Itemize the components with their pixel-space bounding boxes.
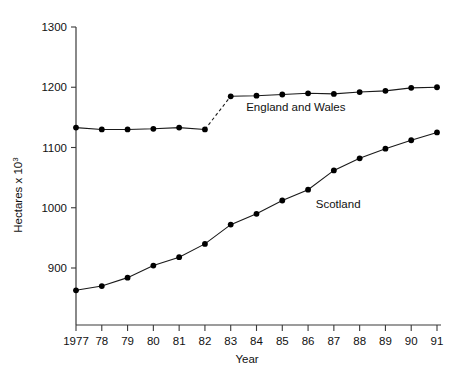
y-axis-title-text: Hectares x 10 <box>12 162 24 233</box>
data-point-marker <box>150 126 156 132</box>
y-axis-title: Hectares x 103 <box>11 157 24 233</box>
x-tick-label: 88 <box>353 335 366 347</box>
data-point-marker <box>176 125 182 131</box>
x-tick-label: 91 <box>431 335 444 347</box>
series-label-england-and-wales: England and Wales <box>246 101 346 113</box>
data-point-marker <box>279 198 285 204</box>
line-chart: 9001000110012001300 19777879808182838485… <box>0 0 461 382</box>
series-label-scotland: Scotland <box>316 198 361 210</box>
data-point-marker <box>125 275 131 281</box>
x-axis-title-text: Year <box>235 353 258 365</box>
data-point-marker <box>99 283 105 289</box>
x-tick-label: 1977 <box>63 335 89 347</box>
y-tick-label: 1100 <box>42 142 67 154</box>
data-point-marker <box>279 92 285 98</box>
data-point-marker <box>331 168 337 174</box>
data-point-marker <box>254 211 260 217</box>
data-point-marker <box>434 130 440 136</box>
y-tick-label: 900 <box>48 262 67 274</box>
data-point-marker <box>125 127 131 133</box>
x-tick-label: 78 <box>95 335 108 347</box>
y-axis-title-superscript: 3 <box>11 157 20 162</box>
x-tick-label: 81 <box>173 335 186 347</box>
data-point-marker <box>383 88 389 94</box>
data-point-marker <box>228 222 234 228</box>
series-line-dashed-segment <box>205 96 231 129</box>
data-point-marker <box>408 85 414 91</box>
y-tick-label: 1000 <box>41 202 67 214</box>
chart-container: 9001000110012001300 19777879808182838485… <box>0 0 461 382</box>
x-tick-label: 82 <box>199 335 212 347</box>
x-axis-ticks <box>76 325 437 331</box>
svg-text:Hectares x 103: Hectares x 103 <box>11 157 24 233</box>
data-point-marker <box>434 84 440 90</box>
x-tick-label: 84 <box>250 335 263 347</box>
data-point-marker <box>305 90 311 96</box>
series-annotations-group: England and WalesScotland <box>246 101 360 209</box>
x-tick-label: 89 <box>379 335 392 347</box>
x-tick-label: 85 <box>276 335 289 347</box>
data-point-marker <box>73 125 79 131</box>
series-lines-group <box>76 87 437 290</box>
data-point-marker <box>202 241 208 247</box>
data-point-marker <box>305 187 311 193</box>
data-point-marker <box>202 127 208 133</box>
data-point-marker <box>408 137 414 143</box>
data-point-marker <box>99 127 105 133</box>
x-tick-label: 80 <box>147 335 160 347</box>
data-point-marker <box>176 254 182 260</box>
series-markers-group <box>73 84 440 293</box>
data-point-marker <box>150 263 156 269</box>
x-tick-label: 87 <box>327 335 340 347</box>
data-point-marker <box>357 155 363 161</box>
x-tick-label: 86 <box>302 335 315 347</box>
data-point-marker <box>228 93 234 99</box>
y-tick-label: 1200 <box>41 81 67 93</box>
data-point-marker <box>73 287 79 293</box>
y-axis-tick-labels: 9001000110012001300 <box>41 21 67 274</box>
y-axis-ticks <box>71 27 76 268</box>
x-tick-label: 79 <box>121 335 134 347</box>
data-point-marker <box>383 146 389 152</box>
x-axis-tick-labels: 19777879808182838485868788899091 <box>63 335 443 347</box>
data-point-marker <box>254 93 260 99</box>
y-tick-label: 1300 <box>41 21 67 33</box>
x-tick-label: 90 <box>405 335 418 347</box>
x-tick-label: 83 <box>224 335 237 347</box>
series-line <box>76 128 205 130</box>
data-point-marker <box>357 89 363 95</box>
data-point-marker <box>331 91 337 97</box>
